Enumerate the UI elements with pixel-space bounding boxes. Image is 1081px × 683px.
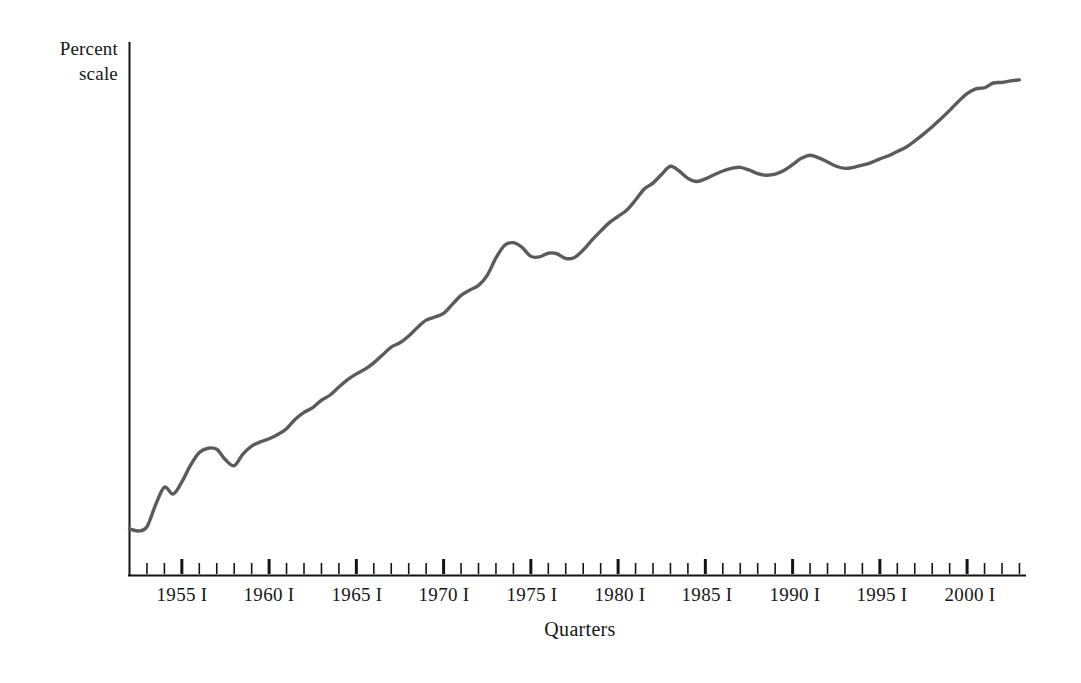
chart-figure: Percent scale Quarters 1955 I1960 I1965 … <box>0 0 1081 683</box>
y-axis-label: Percent scale <box>18 36 118 86</box>
y-axis-label-line2: scale <box>18 61 118 86</box>
x-axis-ticks <box>147 559 1020 574</box>
data-series-line <box>130 80 1020 531</box>
chart-plot-area <box>0 0 1081 683</box>
x-axis-tick-label: 2000 I <box>910 584 1030 606</box>
x-axis-label: Quarters <box>480 618 680 641</box>
y-axis-label-line1: Percent <box>18 36 118 61</box>
